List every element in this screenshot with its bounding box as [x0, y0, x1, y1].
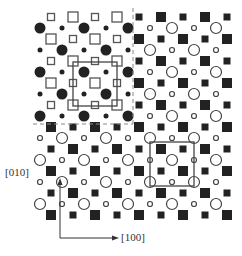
filled-square-atom	[46, 166, 56, 176]
filled-square-atom	[112, 188, 122, 198]
filled-square-atom	[202, 124, 209, 131]
open-circle-atom	[101, 177, 112, 188]
open-square-atom	[92, 58, 99, 65]
filled-circle-atom	[126, 92, 131, 97]
filled-square-atom	[114, 124, 121, 131]
filled-square-atom	[70, 168, 77, 175]
filled-square-atom	[136, 146, 143, 153]
open-circle-atom	[211, 111, 222, 122]
filled-square-atom	[200, 188, 210, 198]
filled-circle-atom	[79, 23, 90, 34]
filled-square-atom	[200, 144, 210, 154]
open-square-atom	[48, 14, 55, 21]
filled-square-atom	[178, 210, 188, 220]
filled-square-atom	[46, 210, 56, 220]
filled-circle-atom	[60, 70, 65, 75]
open-circle-atom	[38, 136, 43, 141]
filled-square-atom	[136, 14, 143, 21]
axis-arrows	[58, 178, 120, 241]
filled-circle-atom	[38, 48, 43, 53]
open-square-atom	[92, 102, 99, 109]
filled-square-atom	[114, 168, 121, 175]
filled-square-atom	[224, 102, 231, 109]
open-square-atom	[48, 58, 55, 65]
open-circle-atom	[170, 92, 175, 97]
filled-square-atom	[134, 166, 144, 176]
filled-square-atom	[156, 188, 166, 198]
open-circle-atom	[214, 180, 219, 185]
open-circle-atom	[101, 133, 112, 144]
filled-square-atom	[202, 168, 209, 175]
filled-square-atom	[180, 14, 187, 21]
filled-square-atom	[180, 102, 187, 109]
open-circle-atom	[211, 23, 222, 34]
open-circle-atom	[192, 26, 197, 31]
filled-square-atom	[222, 210, 232, 220]
open-circle-atom	[170, 136, 175, 141]
filled-square-atom	[136, 102, 143, 109]
filled-circle-atom	[104, 26, 109, 31]
filled-square-atom	[158, 124, 165, 131]
open-circle-atom	[192, 70, 197, 75]
filled-square-atom	[114, 212, 121, 219]
filled-square-atom	[48, 190, 55, 197]
open-circle-atom	[192, 114, 197, 119]
filled-square-atom	[70, 212, 77, 219]
filled-square-atom	[224, 190, 231, 197]
filled-square-atom	[158, 212, 165, 219]
filled-square-atom	[90, 166, 100, 176]
open-circle-atom	[57, 177, 68, 188]
filled-square-atom	[156, 144, 166, 154]
filled-circle-atom	[101, 45, 112, 56]
filled-square-atom	[178, 34, 188, 44]
filled-square-atom	[134, 210, 144, 220]
filled-square-atom	[92, 146, 99, 153]
open-circle-atom	[214, 92, 219, 97]
open-circle-atom	[170, 180, 175, 185]
open-circle-atom	[192, 202, 197, 207]
filled-circle-atom	[79, 67, 90, 78]
filled-square-atom	[178, 122, 188, 132]
open-square-atom	[90, 78, 100, 88]
open-circle-atom	[79, 199, 90, 210]
filled-square-atom	[136, 58, 143, 65]
filled-square-atom	[134, 122, 144, 132]
filled-circle-atom	[35, 23, 46, 34]
filled-square-atom	[112, 144, 122, 154]
filled-circle-atom	[101, 89, 112, 100]
open-circle-atom	[167, 67, 178, 78]
open-square-atom	[68, 12, 78, 22]
open-circle-atom	[82, 180, 87, 185]
open-circle-atom	[35, 199, 46, 210]
filled-circle-atom	[60, 114, 65, 119]
open-circle-atom	[145, 45, 156, 56]
open-circle-atom	[82, 136, 87, 141]
open-circle-atom	[79, 155, 90, 166]
open-square-atom	[92, 14, 99, 21]
open-square-atom	[48, 102, 55, 109]
filled-square-atom	[224, 58, 231, 65]
filled-square-atom	[200, 100, 210, 110]
open-circle-atom	[38, 180, 43, 185]
filled-circle-atom	[104, 70, 109, 75]
filled-circle-atom	[82, 48, 87, 53]
open-circle-atom	[189, 89, 200, 100]
open-circle-atom	[189, 45, 200, 56]
open-circle-atom	[211, 155, 222, 166]
filled-square-atom	[224, 146, 231, 153]
open-circle-atom	[214, 48, 219, 53]
filled-circle-atom	[123, 23, 134, 34]
open-circle-atom	[145, 89, 156, 100]
filled-square-atom	[222, 34, 232, 44]
open-circle-atom	[211, 67, 222, 78]
open-square-atom	[112, 12, 122, 22]
filled-square-atom	[200, 56, 210, 66]
filled-circle-atom	[126, 48, 131, 53]
filled-square-atom	[48, 146, 55, 153]
open-circle-atom	[148, 202, 153, 207]
filled-square-atom	[70, 124, 77, 131]
open-circle-atom	[104, 158, 109, 163]
filled-square-atom	[178, 78, 188, 88]
filled-square-atom	[156, 100, 166, 110]
open-circle-atom	[126, 136, 131, 141]
